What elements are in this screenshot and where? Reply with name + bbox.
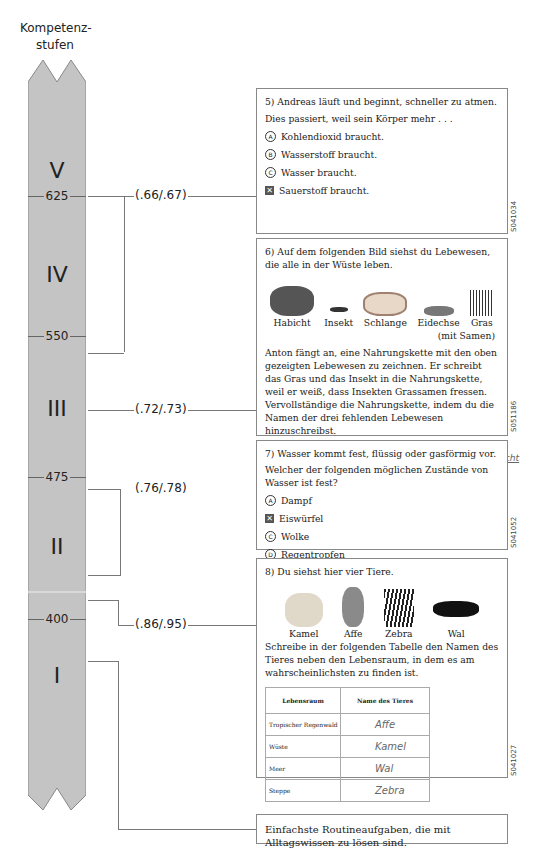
q5-option-c[interactable]: CWasser braucht.	[265, 166, 499, 179]
option-c-circle-icon: C	[265, 531, 276, 542]
snake-image	[363, 292, 407, 316]
q8-body: Schreibe in der folgenden Tabelle den Na…	[265, 640, 499, 679]
organism-gras: Gras	[470, 290, 494, 329]
selected-x-icon: ✕	[265, 514, 274, 523]
table-row: Tropischer Regenwald Affe	[266, 714, 430, 736]
level-i: I	[28, 663, 86, 688]
q7-stem-1: 7) Wasser kommt fest, flüssig oder gasfö…	[265, 447, 499, 460]
q5-option-a[interactable]: AKohlendioxid braucht.	[265, 130, 499, 143]
orca-image	[433, 601, 479, 617]
selected-x-icon: ✕	[265, 186, 274, 195]
zebra-image	[384, 589, 414, 627]
table-row: Meer Wal	[266, 758, 430, 780]
q7-option-b[interactable]: ✕Eiswürfel	[265, 512, 499, 525]
q5-stem-1: 5) Andreas läuft und beginnt, schneller …	[265, 95, 499, 108]
q7-option-c[interactable]: CWolke	[265, 530, 499, 543]
lizard-image	[424, 306, 454, 316]
item-code-q7: S041052	[510, 517, 518, 548]
question-box-q8: 8) Du siehst hier vier Tiere. Kamel Affe…	[256, 558, 508, 778]
title-line-2: stufen	[20, 37, 90, 54]
tick-625: 625	[28, 189, 86, 203]
pvalue-q6: (.72/.73)	[134, 402, 188, 416]
question-box-q5: 5) Andreas läuft und beginnt, schneller …	[256, 88, 508, 234]
q8-intro: 8) Du siehst hier vier Tiere.	[265, 565, 499, 578]
option-b-circle-icon: B	[265, 149, 276, 160]
table-row: Steppe Zebra	[266, 780, 430, 802]
q5-option-d[interactable]: ✕Sauerstoff braucht.	[265, 184, 499, 197]
scale-title: Kompetenz- stufen	[20, 20, 90, 54]
level-ii: II	[28, 534, 86, 559]
q7-option-a[interactable]: ADampf	[265, 494, 499, 507]
organism-insekt: Insekt	[324, 307, 353, 329]
q8-animals: Kamel Affe Zebra Wal	[265, 584, 499, 640]
level-iii: III	[28, 396, 86, 421]
animal-zebra: Zebra	[384, 589, 414, 640]
organism-eidechse: Eidechse	[418, 306, 460, 329]
q5-stem-2: Dies passiert, weil sein Körper mehr . .…	[265, 112, 499, 125]
habitat-table: Lebensraum Name des Tieres Tropischer Re…	[265, 687, 430, 802]
animal-affe: Affe	[342, 587, 364, 640]
monkey-image	[342, 587, 364, 627]
title-line-1: Kompetenz-	[20, 20, 90, 37]
level-1-description: Einfachste Routineaufgaben, die mit Allt…	[256, 814, 508, 844]
item-code-q6: S051186	[510, 401, 518, 432]
tick-400: 400	[28, 612, 86, 626]
hawk-image	[270, 286, 314, 316]
animal-kamel: Kamel	[285, 593, 323, 640]
pvalue-q8: (.86/.95)	[134, 617, 188, 631]
camel-image	[285, 593, 323, 627]
connector-q8-a	[88, 600, 119, 626]
level-iv: IV	[28, 262, 86, 287]
animal-wal: Wal	[433, 601, 479, 640]
q6-body: Anton fängt an, eine Nahrungskette mit d…	[265, 346, 499, 437]
connector-desc-h	[118, 829, 256, 830]
insect-image	[330, 307, 348, 312]
q7-stem-2: Welcher der folgenden möglichen Zustände…	[265, 463, 499, 489]
q6-intro: 6) Auf dem folgenden Bild siehst du Lebe…	[265, 245, 499, 271]
connector-q5-v	[124, 196, 125, 352]
connector-q7	[88, 489, 121, 576]
tick-550: 550	[28, 329, 86, 343]
question-box-q6: 6) Auf dem folgenden Bild siehst du Lebe…	[256, 238, 508, 436]
option-a-circle-icon: A	[265, 131, 276, 142]
item-code-q8: S041027	[510, 745, 518, 776]
grass-image	[470, 290, 494, 316]
organism-habicht: Habicht	[270, 286, 314, 329]
pvalue-q5: (.66/.67)	[134, 188, 188, 202]
pvalue-q7: (.76/.78)	[134, 481, 188, 495]
level-v: V	[28, 158, 86, 183]
item-code-q5: S041034	[510, 201, 518, 232]
tick-475: 475	[28, 470, 86, 484]
q6-organisms: Habicht Insekt Schlange Eidechse Gras	[265, 277, 499, 329]
option-c-circle-icon: C	[265, 167, 276, 178]
connector-desc-v	[88, 661, 119, 830]
organism-schlange: Schlange	[363, 292, 407, 329]
connector-q5-h	[88, 196, 124, 354]
q5-option-b[interactable]: BWasserstoff braucht.	[265, 148, 499, 161]
question-box-q7: 7) Wasser kommt fest, flüssig oder gasfö…	[256, 440, 508, 550]
table-row: Wüste Kamel	[266, 736, 430, 758]
option-a-circle-icon: A	[265, 495, 276, 506]
